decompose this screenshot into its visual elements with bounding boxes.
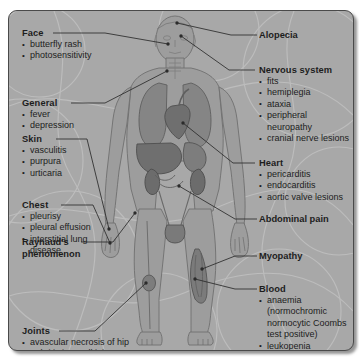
label-item: ataxia <box>259 99 349 110</box>
label-item: purpura <box>22 156 67 167</box>
label-item: anaemia <box>259 295 347 306</box>
label-item-continuation: (normochromic <box>259 306 347 317</box>
label-group-nervous-system[interactable]: Nervous system fits hemiplegia ataxia pe… <box>259 65 349 144</box>
label-group-abdominal-pain[interactable]: Abdominal pain <box>259 214 329 226</box>
label-item: leukopenia <box>259 341 347 351</box>
label-group-heart[interactable]: Heart pericarditis endocarditis aortic v… <box>259 158 343 203</box>
label-heading: Skin <box>22 134 67 145</box>
label-group-raynauds[interactable]: Raynaud's phenomenon <box>22 237 80 260</box>
label-heading: Face <box>22 28 92 39</box>
label-item: photosensitivity <box>22 50 92 61</box>
label-heading: Blood <box>259 284 347 295</box>
label-group-joints[interactable]: Joints avascular necrosis of hip arthrit… <box>22 326 129 351</box>
label-heading: Myopathy <box>259 251 302 263</box>
label-item-continuation: neuropathy <box>259 122 349 133</box>
label-heading: Raynaud's <box>22 237 80 249</box>
label-group-blood[interactable]: Blood anaemia (normochromic normocytic C… <box>259 284 347 351</box>
label-heading: Alopecia <box>259 30 298 42</box>
label-item: fever <box>22 109 74 120</box>
label-item: pleurisy <box>22 211 91 222</box>
label-item: hemiplegia <box>259 87 349 98</box>
label-group-skin[interactable]: Skin vasculitis purpura urticaria <box>22 134 67 179</box>
label-item: vasculitis <box>22 145 67 156</box>
diagram-panel: Face butterfly rash photosensitivity Gen… <box>8 10 354 351</box>
label-group-alopecia[interactable]: Alopecia <box>259 30 298 42</box>
label-item: urticaria <box>22 168 67 179</box>
label-item-continuation: normocytic Coombs <box>259 318 347 329</box>
label-item: aortic valve lesions <box>259 192 343 203</box>
label-group-general[interactable]: General fever depression <box>22 98 74 132</box>
label-item: pericarditis <box>259 169 343 180</box>
label-heading: Abdominal pain <box>259 214 329 226</box>
label-item: pleural effusion <box>22 222 91 233</box>
label-group-myopathy[interactable]: Myopathy <box>259 251 302 263</box>
label-heading: Heart <box>259 158 343 169</box>
label-item: arthritis in small joints <box>22 348 129 351</box>
label-heading: Chest <box>22 200 91 211</box>
label-item: butterfly rash <box>22 39 92 50</box>
label-item: endocarditis <box>259 180 343 191</box>
label-heading-continuation: phenomenon <box>22 249 80 261</box>
label-item-continuation: test positive) <box>259 329 347 340</box>
label-item: cranial nerve lesions <box>259 133 349 144</box>
label-heading: General <box>22 98 74 109</box>
label-item: fits <box>259 76 349 87</box>
label-item: depression <box>22 120 74 131</box>
label-item: peripheral <box>259 110 349 121</box>
label-group-face[interactable]: Face butterfly rash photosensitivity <box>22 28 92 62</box>
label-heading: Nervous system <box>259 65 349 76</box>
diagram-root: Face butterfly rash photosensitivity Gen… <box>0 0 359 361</box>
label-item: avascular necrosis of hip <box>22 337 129 348</box>
label-heading: Joints <box>22 326 129 337</box>
